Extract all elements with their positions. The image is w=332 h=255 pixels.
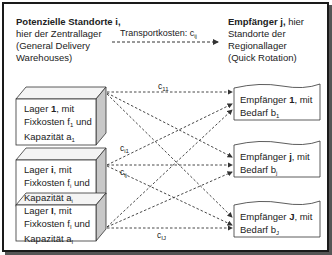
sink-text-J: Empfänger J, mit Bedarf bJ <box>240 211 312 239</box>
text: I <box>72 239 74 245</box>
edge-label-ci1: ci1 <box>120 142 129 157</box>
text: und <box>71 177 90 188</box>
text: Empfänger <box>240 211 289 222</box>
text: Lager <box>24 103 51 114</box>
text: ij <box>124 172 127 178</box>
source-text-I: Lager I, mit Fixkosten fI und Kapazität … <box>24 205 90 249</box>
text: Fixkosten f <box>24 116 70 127</box>
text: , mit <box>292 151 310 162</box>
text: Kapazität a <box>24 131 72 142</box>
sink-text-j: Empfänger j, mit Bedarf bj <box>240 151 310 179</box>
edge-label-c11: c11 <box>158 80 168 95</box>
text: und <box>72 218 91 229</box>
text: , mit <box>54 164 72 175</box>
edge-label-cIJ: cIJ <box>157 229 166 244</box>
edge-label-cij: cij <box>120 166 127 181</box>
text: IJ <box>161 235 166 241</box>
text: Kapazität a <box>24 192 72 203</box>
text: Empfänger <box>240 94 289 105</box>
text: 1 <box>276 113 279 119</box>
text: , mit <box>56 103 74 114</box>
text: i1 <box>124 148 129 154</box>
source-text-i: Lager i, mit Fixkosten fi und Kapazität … <box>24 164 90 208</box>
text: , mit <box>294 94 312 105</box>
text: Bedarf b <box>240 164 276 175</box>
text: Lager <box>24 164 51 175</box>
text: Fixkosten f <box>24 177 70 188</box>
text: i <box>72 198 73 204</box>
text: Lager <box>24 205 51 216</box>
transport-edges <box>107 92 232 228</box>
sink-text-1: Empfänger 1, mit Bedarf b1 <box>240 94 312 122</box>
text: 11 <box>162 86 168 92</box>
text: Empfänger <box>240 151 289 162</box>
source-text-1: Lager 1, mit Fixkosten f1 und Kapazität … <box>24 103 92 147</box>
text: , mit <box>54 205 72 216</box>
text: Bedarf b <box>240 107 276 118</box>
text: Fixkosten f <box>24 218 70 229</box>
text: j <box>276 170 277 176</box>
text: J <box>276 230 279 236</box>
text: Bedarf b <box>240 224 276 235</box>
text: 1 <box>72 137 75 143</box>
text: und <box>73 116 92 127</box>
text: Kapazität a <box>24 233 72 244</box>
text: , mit <box>294 211 312 222</box>
